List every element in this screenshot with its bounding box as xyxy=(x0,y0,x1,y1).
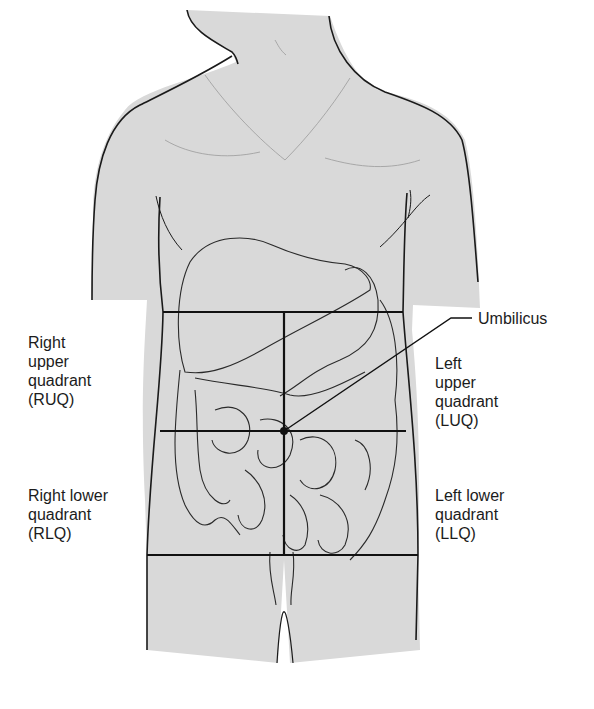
rlq-line-3: (RLQ) xyxy=(28,524,108,543)
ruq-line-1: Right xyxy=(28,333,91,352)
umbilicus-label-text: Umbilicus xyxy=(478,309,547,328)
right-lower-quadrant-label: Right lower quadrant (RLQ) xyxy=(28,486,108,543)
luq-line-1: Left xyxy=(435,354,498,373)
llq-line-1: Left lower xyxy=(435,486,504,505)
umbilicus-label: Umbilicus xyxy=(478,309,547,328)
right-upper-quadrant-label: Right upper quadrant (RUQ) xyxy=(28,333,91,409)
llq-line-3: (LLQ) xyxy=(435,524,504,543)
rlq-line-2: quadrant xyxy=(28,505,108,524)
ruq-line-3: quadrant xyxy=(28,371,91,390)
luq-line-2: upper xyxy=(435,373,498,392)
luq-line-3: quadrant xyxy=(435,392,498,411)
rlq-line-1: Right lower xyxy=(28,486,108,505)
ruq-line-2: upper xyxy=(28,352,91,371)
left-upper-quadrant-label: Left upper quadrant (LUQ) xyxy=(435,354,498,430)
luq-line-4: (LUQ) xyxy=(435,411,498,430)
ruq-line-4: (RUQ) xyxy=(28,390,91,409)
llq-line-2: quadrant xyxy=(435,505,504,524)
left-lower-quadrant-label: Left lower quadrant (LLQ) xyxy=(435,486,504,543)
